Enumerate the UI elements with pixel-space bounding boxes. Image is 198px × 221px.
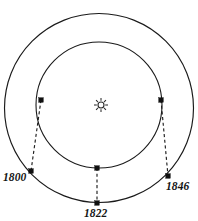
marker-inner-1822 (95, 166, 100, 171)
marker-outer-1822 (95, 201, 100, 206)
year-label-1800: 1800 (3, 171, 27, 183)
orbit-diagram: 1800 1822 1846 (0, 0, 198, 221)
year-label-1822: 1822 (84, 207, 108, 219)
year-label-1846: 1846 (166, 180, 190, 192)
marker-outer-1800 (29, 169, 34, 174)
marker-inner-1800 (39, 98, 44, 103)
marker-inner-1846 (159, 98, 164, 103)
marker-outer-1846 (166, 174, 171, 179)
